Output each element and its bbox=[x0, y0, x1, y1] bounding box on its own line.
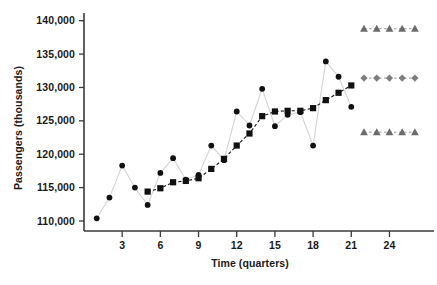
data-point-square bbox=[195, 175, 201, 181]
x-axis-title: Time (quarters) bbox=[211, 257, 289, 269]
data-point-circle bbox=[107, 195, 113, 201]
data-point-square bbox=[348, 82, 354, 88]
plot-background bbox=[0, 0, 437, 285]
x-tick-label: 6 bbox=[157, 239, 163, 251]
data-point-circle bbox=[170, 155, 176, 161]
y-tick-label: 130,000 bbox=[36, 81, 75, 93]
passengers-time-series-chart: 110,000115,000120,000125,000130,000135,0… bbox=[0, 0, 437, 285]
data-point-square bbox=[246, 130, 252, 136]
data-point-circle bbox=[259, 86, 265, 92]
data-point-square bbox=[335, 90, 341, 96]
y-tick-label: 140,000 bbox=[36, 14, 75, 26]
x-tick-label: 15 bbox=[269, 239, 281, 251]
data-point-square bbox=[310, 105, 316, 111]
data-point-square bbox=[259, 113, 265, 119]
x-tick-label: 21 bbox=[345, 239, 357, 251]
data-point-square bbox=[157, 185, 163, 191]
x-tick-label: 18 bbox=[307, 239, 319, 251]
x-tick-label: 12 bbox=[231, 239, 243, 251]
data-point-circle bbox=[94, 215, 100, 221]
data-point-square bbox=[170, 179, 176, 185]
data-point-circle bbox=[157, 170, 163, 176]
y-tick-label: 120,000 bbox=[36, 148, 75, 160]
y-axis-title: Passengers (thousands) bbox=[12, 66, 24, 190]
y-tick-label: 135,000 bbox=[36, 48, 75, 60]
x-tick-label: 3 bbox=[119, 239, 125, 251]
chart-container: 110,000115,000120,000125,000130,000135,0… bbox=[0, 0, 437, 285]
data-point-circle bbox=[119, 163, 125, 169]
data-point-circle bbox=[247, 123, 253, 129]
data-point-square bbox=[221, 156, 227, 162]
data-point-circle bbox=[132, 185, 138, 191]
data-point-square bbox=[285, 108, 291, 114]
data-point-square bbox=[183, 178, 189, 184]
data-point-square bbox=[272, 108, 278, 114]
x-tick-label: 9 bbox=[196, 239, 202, 251]
data-point-square bbox=[323, 97, 329, 103]
data-point-circle bbox=[272, 123, 278, 129]
y-tick-label: 115,000 bbox=[37, 181, 75, 193]
data-point-circle bbox=[234, 109, 240, 115]
data-point-circle bbox=[336, 74, 342, 80]
data-point-circle bbox=[348, 104, 354, 110]
data-point-square bbox=[234, 142, 240, 148]
data-point-square bbox=[297, 108, 303, 114]
y-tick-label: 125,000 bbox=[36, 114, 75, 126]
data-point-circle bbox=[323, 59, 329, 65]
data-point-square bbox=[208, 166, 214, 172]
y-tick-label: 110,000 bbox=[37, 215, 75, 227]
data-point-circle bbox=[208, 143, 214, 149]
data-point-circle bbox=[145, 202, 151, 208]
x-tick-label: 24 bbox=[384, 239, 396, 251]
data-point-square bbox=[145, 189, 151, 195]
data-point-circle bbox=[310, 143, 316, 149]
